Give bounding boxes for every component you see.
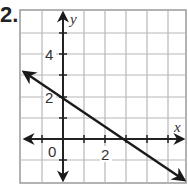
x-tick-label-2: 2: [101, 146, 109, 163]
coordinate-plane: 4 2 0 2 y x: [0, 0, 188, 192]
y-axis-label: y: [68, 11, 77, 27]
x-axis-label: x: [173, 119, 181, 135]
x-tick-label-0: 0: [48, 143, 56, 160]
y-tick-label-4: 4: [45, 46, 53, 63]
